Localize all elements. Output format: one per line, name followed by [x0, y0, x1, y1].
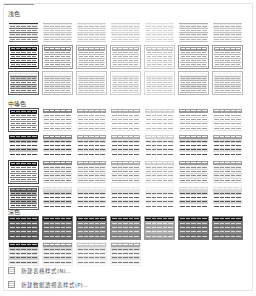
table-style-light-14[interactable]: [212, 45, 243, 69]
table-style-light-9[interactable]: [42, 45, 73, 69]
table-style-light-3[interactable]: [76, 19, 107, 43]
table-style-light-18[interactable]: [110, 71, 141, 95]
style-preview-cell: [32, 21, 37, 22]
style-preview-cell: [100, 39, 105, 40]
table-style-light-2[interactable]: [42, 19, 73, 43]
table-style-medium-7[interactable]: [212, 108, 243, 132]
table-style-dark-8[interactable]: [8, 242, 39, 266]
style-preview-cell: [89, 253, 94, 254]
table-style-dark-10[interactable]: [76, 242, 107, 266]
style-preview-cell: [202, 34, 207, 35]
table-style-medium-5[interactable]: [144, 108, 175, 132]
style-preview-cell: [89, 149, 94, 150]
table-style-light-15[interactable]: [8, 71, 39, 95]
table-style-light-6[interactable]: [178, 19, 209, 43]
style-preview-cell: [50, 78, 54, 79]
table-style-medium-13[interactable]: [178, 134, 209, 158]
style-preview-cell: [27, 236, 32, 237]
table-style-medium-11[interactable]: [110, 134, 141, 158]
style-preview-cell: [21, 127, 25, 128]
style-preview-cell: [220, 21, 225, 22]
style-preview-cell: [100, 86, 104, 87]
table-style-light-8[interactable]: [8, 45, 39, 69]
table-style-medium-19[interactable]: [144, 160, 175, 184]
new-table-style-button[interactable]: 新建表格样式(N)...: [8, 265, 71, 276]
style-preview-cell: [50, 257, 55, 258]
style-preview-cell: [191, 34, 196, 35]
style-preview-cell: [118, 141, 123, 142]
table-style-medium-10[interactable]: [76, 134, 107, 158]
style-preview-cell: [123, 227, 128, 228]
table-style-medium-24[interactable]: [76, 186, 107, 210]
table-style-medium-17[interactable]: [76, 160, 107, 184]
table-style-light-1[interactable]: [8, 19, 39, 43]
table-style-medium-26[interactable]: [144, 186, 175, 210]
style-preview-cell: [32, 48, 36, 49]
table-style-light-16[interactable]: [42, 71, 73, 95]
table-style-light-5[interactable]: [144, 19, 175, 43]
style-preview-cell: [225, 39, 230, 40]
style-preview-cell: [215, 86, 219, 87]
table-style-medium-20[interactable]: [178, 160, 209, 184]
table-style-light-10[interactable]: [76, 45, 107, 69]
style-preview-cell: [147, 82, 151, 83]
table-style-medium-12[interactable]: [144, 134, 175, 158]
style-preview-cell: [197, 223, 202, 224]
style-preview-cell: [113, 48, 117, 49]
table-style-light-19[interactable]: [144, 71, 175, 95]
table-style-medium-25[interactable]: [110, 186, 141, 210]
table-style-medium-2[interactable]: [42, 108, 73, 132]
style-preview-cell: [215, 56, 219, 57]
table-style-dark-1[interactable]: [8, 216, 39, 240]
table-style-medium-15[interactable]: [8, 160, 39, 184]
table-style-dark-3[interactable]: [76, 216, 107, 240]
table-style-light-21[interactable]: [212, 71, 243, 95]
table-style-medium-6[interactable]: [178, 108, 209, 132]
style-preview-cell: [231, 171, 236, 172]
new-pivot-style-button[interactable]: 新建数据透视表样式(P)...: [8, 279, 88, 290]
style-preview-cell: [66, 249, 71, 250]
table-style-dark-4[interactable]: [110, 216, 141, 240]
table-style-medium-16[interactable]: [42, 160, 73, 184]
table-style-light-7[interactable]: [212, 19, 243, 43]
table-style-medium-27[interactable]: [178, 186, 209, 210]
table-style-medium-8[interactable]: [8, 134, 39, 158]
table-style-light-13[interactable]: [178, 45, 209, 69]
table-style-light-4[interactable]: [110, 19, 141, 43]
table-style-dark-7[interactable]: [212, 216, 243, 240]
table-style-medium-28[interactable]: [212, 186, 243, 210]
style-preview-row: [77, 205, 106, 209]
table-style-medium-1[interactable]: [8, 108, 39, 132]
table-style-medium-21[interactable]: [212, 160, 243, 184]
style-preview-cell: [16, 223, 21, 224]
table-style-dark-6[interactable]: [178, 216, 209, 240]
table-style-dark-5[interactable]: [144, 216, 175, 240]
style-preview-cell: [214, 197, 219, 198]
table-style-medium-9[interactable]: [42, 134, 73, 158]
table-style-medium-14[interactable]: [212, 134, 243, 158]
style-preview-cell: [152, 90, 156, 91]
style-preview-cell: [231, 218, 236, 219]
table-style-medium-3[interactable]: [76, 108, 107, 132]
style-preview-cell: [236, 64, 240, 65]
table-style-light-20[interactable]: [178, 71, 209, 95]
table-style-light-12[interactable]: [144, 45, 175, 69]
table-style-medium-23[interactable]: [42, 186, 73, 210]
table-style-medium-18[interactable]: [110, 160, 141, 184]
style-preview-cell: [123, 82, 127, 83]
table-style-dark-2[interactable]: [42, 216, 73, 240]
table-style-light-17[interactable]: [76, 71, 107, 95]
table-style-dark-11[interactable]: [110, 242, 141, 266]
table-style-dark-9[interactable]: [42, 242, 73, 266]
style-preview-cell: [61, 257, 66, 258]
style-preview-cell: [10, 236, 15, 237]
style-preview-cell: [89, 231, 94, 232]
style-preview-cell: [152, 180, 157, 181]
style-preview-cell: [168, 26, 173, 27]
style-preview-cell: [220, 162, 225, 163]
style-preview-cell: [118, 39, 123, 40]
style-preview-cell: [21, 201, 25, 202]
table-style-light-11[interactable]: [110, 45, 141, 69]
style-preview-cell: [78, 123, 83, 124]
table-style-medium-4[interactable]: [110, 108, 141, 132]
